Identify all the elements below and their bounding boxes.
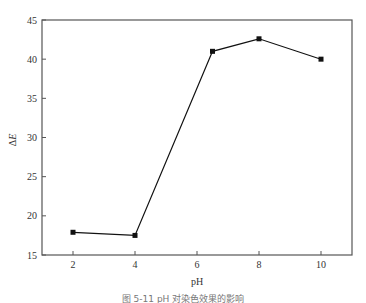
x-axis-label: pH (191, 276, 203, 287)
y-axis-label: ΔE (7, 134, 18, 147)
plot-frame (42, 20, 352, 255)
series-line (73, 39, 321, 236)
data-markers (71, 36, 324, 238)
y-tick-label: 45 (27, 15, 37, 26)
y-tick-label: 15 (27, 250, 37, 261)
y-tick-label: 35 (27, 93, 37, 104)
x-tick-label: 6 (195, 259, 200, 270)
y-tick-label: 20 (27, 210, 37, 221)
y-tick-label: 40 (27, 54, 37, 65)
line-chart: 15202530354045 246810 pH ΔE (0, 0, 366, 303)
y-tick-label: 30 (27, 132, 37, 143)
y-tick-label: 25 (27, 171, 37, 182)
x-tick-label: 4 (133, 259, 138, 270)
data-point-marker (133, 233, 138, 238)
x-tick-label: 2 (71, 259, 76, 270)
x-axis: 246810 (71, 251, 327, 270)
x-tick-label: 8 (257, 259, 262, 270)
data-point-marker (71, 230, 76, 235)
data-point-marker (257, 36, 262, 41)
x-tick-label: 10 (316, 259, 326, 270)
figure-caption: 图 5-11 pH 对染色效果的影响 (0, 293, 366, 303)
data-point-marker (319, 57, 324, 62)
y-axis: 15202530354045 (27, 15, 46, 261)
data-point-marker (210, 49, 215, 54)
